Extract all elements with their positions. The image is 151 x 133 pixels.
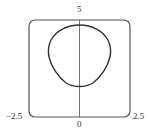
y-max-tick-label: 5 xyxy=(77,5,82,14)
x-min-tick-label: −2.5 xyxy=(6,112,22,121)
x-origin-tick-label: 0 xyxy=(77,120,82,129)
x-max-tick-label: 2.5 xyxy=(133,112,144,121)
plot-area xyxy=(0,0,151,133)
